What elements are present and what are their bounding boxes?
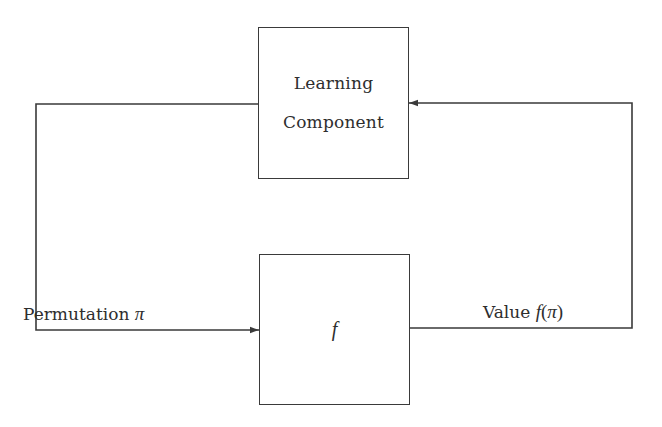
value-text: Value — [483, 302, 530, 322]
close-paren: ) — [557, 301, 563, 322]
value-pi-symbol: π — [547, 301, 557, 322]
learning-component-label-line2: Component — [283, 103, 384, 142]
edge-value-line — [409, 103, 632, 328]
function-f-label: f — [332, 318, 338, 341]
value-edge-label: Value f(π) — [483, 301, 563, 323]
permutation-edge-label: Permutation π — [23, 303, 144, 325]
function-f-node: f — [259, 254, 410, 405]
edge-permutation-line — [36, 104, 259, 330]
learning-component-node: Learning Component — [258, 27, 409, 179]
pi-symbol: π — [135, 303, 145, 324]
permutation-text: Permutation — [23, 304, 129, 324]
learning-component-label-line1: Learning — [294, 64, 373, 103]
diagram-canvas: Learning Component f Permutation π Value… — [0, 0, 662, 427]
